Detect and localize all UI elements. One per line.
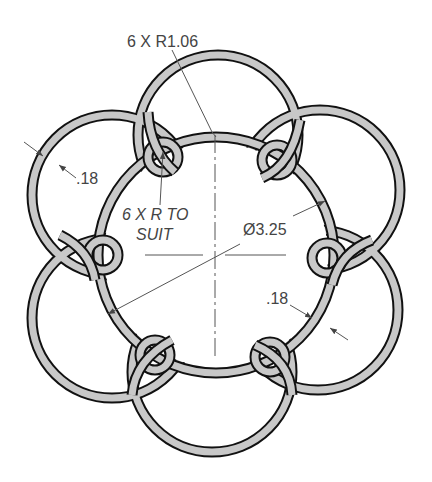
loop-radius-label-line1: 6 X R TO [122,207,188,223]
diameter-label: Ø3.25 [243,222,287,238]
outer-radius-label: 6 X R1.06 [127,34,198,50]
thickness-left-label: .18 [76,171,98,187]
thickness-right-label: .18 [266,291,288,307]
ring-drawing [0,0,432,482]
loop-radius-label-line2: SUIT [136,227,172,243]
inner-mask [104,143,328,367]
